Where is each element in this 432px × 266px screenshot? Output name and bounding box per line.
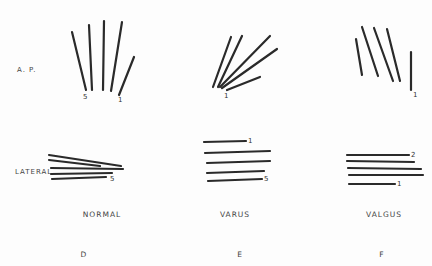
- ap-row-label: A. P.: [17, 66, 36, 74]
- varus-ap-label-1: 1: [224, 92, 228, 100]
- varus-ap-metatarsals: [213, 36, 277, 90]
- valgus-lat-label-1: 1: [397, 180, 401, 188]
- lateral-row-label: LATERAL: [15, 168, 52, 176]
- caption-varus: VARUS: [220, 210, 250, 219]
- panel-letter-f: F: [379, 250, 384, 259]
- valgus-ap-label-1: 1: [413, 91, 417, 99]
- panel-letter-d: D: [81, 250, 88, 259]
- metatarsal-lines: [0, 0, 432, 266]
- varus-lateral-metatarsals: [204, 141, 270, 181]
- foot-metatarsal-diagram: A. P. LATERAL 5 1 1 1 5 1 5 2 1 NORMAL V…: [0, 0, 432, 266]
- valgus-lateral-metatarsals: [347, 155, 423, 184]
- panel-letter-e: E: [237, 250, 243, 259]
- normal-ap-label-1: 1: [118, 96, 122, 104]
- caption-normal: NORMAL: [83, 210, 122, 219]
- caption-valgus: VALGUS: [366, 210, 402, 219]
- normal-lat-label-5: 5: [110, 175, 114, 183]
- valgus-lat-label-2: 2: [411, 151, 415, 159]
- normal-ap-label-5: 5: [83, 93, 87, 101]
- varus-lat-label-5: 5: [264, 175, 268, 183]
- valgus-ap-metatarsals: [356, 27, 411, 90]
- varus-lat-label-1: 1: [248, 137, 252, 145]
- normal-ap-metatarsals: [72, 21, 134, 95]
